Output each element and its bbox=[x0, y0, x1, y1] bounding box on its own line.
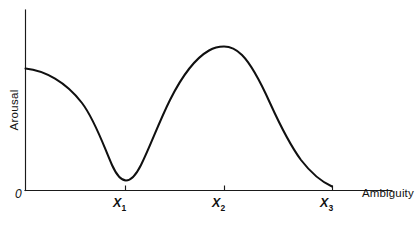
arousal-curve bbox=[26, 47, 333, 187]
y-axis-title: Arousal bbox=[8, 80, 20, 140]
x-tick-label-x1: X1 bbox=[113, 196, 126, 213]
x-tick-label-x2-subscript: 2 bbox=[221, 203, 226, 213]
x-axis-title: Ambiguity bbox=[362, 187, 414, 199]
x-tick-label-x2: X2 bbox=[212, 196, 225, 213]
plot-canvas bbox=[0, 0, 418, 227]
x-tick-label-x3-letter: X bbox=[320, 196, 329, 210]
origin-label: 0 bbox=[15, 187, 22, 201]
arousal-ambiguity-figure: 0 X1 X2 X3 Ambiguity Arousal bbox=[0, 0, 418, 227]
x-tick-label-x1-letter: X bbox=[113, 196, 122, 210]
x-tick-label-x3-subscript: 3 bbox=[329, 203, 334, 213]
x-tick-label-x3: X3 bbox=[320, 196, 333, 213]
x-tick-label-x2-letter: X bbox=[212, 196, 221, 210]
x-tick-label-x1-subscript: 1 bbox=[122, 203, 127, 213]
